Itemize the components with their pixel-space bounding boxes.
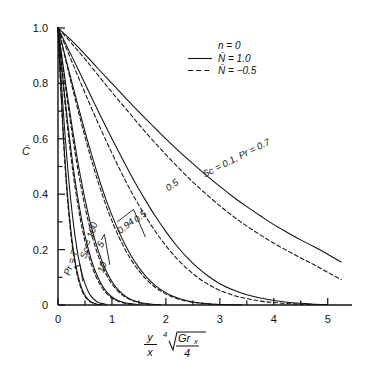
x-tick-label: 0 bbox=[55, 313, 61, 325]
x-tick-label: 2 bbox=[163, 313, 169, 325]
figure-container: 00.20.40.60.81.0012345 Sc = 0.1, Pr = 0.… bbox=[0, 0, 370, 373]
x-title-denominator: x bbox=[146, 346, 153, 358]
y-tick-label: 0.8 bbox=[33, 77, 48, 89]
y-tick-label: 0.4 bbox=[33, 188, 48, 200]
y-axis-title: C̄ bbox=[22, 145, 30, 157]
x-title-radicand-bottom: 4 bbox=[184, 347, 190, 359]
y-tick-label: 0 bbox=[42, 299, 48, 311]
x-tick-label: 5 bbox=[325, 313, 331, 325]
x-tick-label: 3 bbox=[217, 313, 223, 325]
x-tick-label: 1 bbox=[109, 313, 115, 325]
x-title-radicand-top: Gr bbox=[178, 332, 192, 344]
legend-header: n = 0 bbox=[218, 40, 241, 51]
y-tick-label: 0.2 bbox=[33, 244, 48, 256]
x-title-root-index: 4 bbox=[163, 330, 167, 339]
y-tick-label: 1.0 bbox=[33, 22, 48, 34]
legend-entry-solid-label: N̄ = 1.0 bbox=[218, 52, 251, 64]
concentration-profile-chart: 00.20.40.60.81.0012345 Sc = 0.1, Pr = 0.… bbox=[0, 0, 370, 373]
x-tick-label: 4 bbox=[271, 313, 277, 325]
x-title-radicand-sub: x bbox=[193, 337, 198, 346]
y-tick-label: 0.6 bbox=[33, 133, 48, 145]
legend-entry-dashed-label: N̄ = −0.5 bbox=[218, 64, 257, 76]
